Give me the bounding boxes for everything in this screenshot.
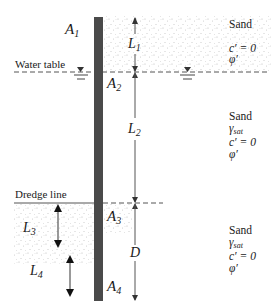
sheet-pile-wall — [94, 17, 103, 301]
cohesion: c′ = 0 — [229, 251, 256, 263]
soil-properties-layer-2: Sand γsat c′ = 0 φ′ — [229, 111, 256, 160]
friction-angle: φ′ — [229, 54, 256, 66]
dimension-label-l3: L3 — [23, 220, 36, 238]
dimension-label-l2: L2 — [128, 121, 141, 139]
dimension-label-l1: L1 — [128, 36, 141, 54]
friction-angle: φ′ — [229, 263, 256, 275]
dredge-line-label: Dredge line — [15, 189, 67, 200]
soil-name: Sand — [229, 19, 256, 31]
dimension-label-d: D — [130, 245, 140, 261]
area-label-a3: A3 — [107, 209, 121, 226]
water-table-label: Water table — [15, 59, 65, 70]
dimension-label-l4: L4 — [30, 263, 43, 281]
unit-weight: γsat — [229, 123, 256, 138]
water-table-symbol-left — [74, 67, 88, 79]
sheet-pile-diagram: A1 A2 A3 A4 L1 L2 D L3 L4 Water table Dr… — [0, 0, 271, 306]
cohesion: c′ = 0 — [229, 137, 256, 149]
area-label-a2: A2 — [107, 76, 121, 93]
soil-properties-layer-1: Sand c′ = 0 φ′ — [229, 19, 256, 66]
friction-angle: φ′ — [229, 149, 256, 161]
unit-weight: γsat — [229, 237, 256, 252]
area-label-a4: A4 — [107, 279, 121, 296]
area-label-a1: A1 — [65, 22, 79, 39]
soil-properties-layer-3: Sand γsat c′ = 0 φ′ — [229, 225, 256, 274]
dimension-arrow-l4 — [66, 255, 74, 297]
